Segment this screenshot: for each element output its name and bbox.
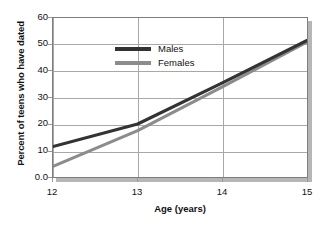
x-axis-title: Age (years) — [52, 203, 308, 214]
legend-label-males: Males — [158, 44, 183, 54]
x-tick-mark-13 — [137, 178, 138, 182]
x-tick-mark-15 — [307, 178, 308, 182]
x-tick-label-12: 12 — [37, 186, 67, 197]
legend-entry-females: Females — [115, 57, 235, 69]
x-tick-mark-12 — [52, 178, 53, 182]
x-tick-label-15: 15 — [292, 186, 322, 197]
x-tick-label-14: 14 — [207, 186, 237, 197]
y-tick-label-20: 20 — [22, 118, 48, 128]
legend-swatch-females-icon — [115, 61, 151, 65]
chart-legend: Males Females — [115, 43, 235, 71]
legend-entry-males: Males — [115, 43, 235, 55]
legend-swatch-males-icon — [115, 47, 151, 51]
line-chart: Percent of teens who have dated 60 50 40… — [0, 0, 329, 229]
x-tick-mark-14 — [222, 178, 223, 182]
series-lines — [53, 18, 307, 177]
x-axis-tick-labels: 12 13 14 15 — [0, 186, 329, 200]
gridline-v-15 — [307, 18, 308, 177]
legend-label-females: Females — [158, 58, 194, 68]
y-tick-label-40: 40 — [22, 65, 48, 75]
x-tick-label-13: 13 — [122, 186, 152, 197]
y-tick-label-0: 0.0 — [22, 172, 48, 182]
plot-area: Males Females — [52, 17, 308, 178]
y-tick-label-30: 30 — [22, 92, 48, 102]
y-tick-label-50: 50 — [22, 38, 48, 48]
y-tick-label-60: 60 — [22, 12, 48, 22]
y-tick-label-10: 10 — [22, 145, 48, 155]
